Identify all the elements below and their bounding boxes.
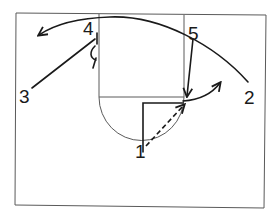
player-2-cut-path (39, 17, 248, 82)
player-4-curl-path (91, 46, 96, 68)
player-3-cut-path (32, 39, 95, 88)
play-diagram: 1 2 3 4 5 (0, 0, 276, 216)
player-label-3: 3 (19, 86, 30, 107)
player-label-4: 4 (83, 18, 94, 39)
court-boundary (15, 13, 266, 208)
player-label-2: 2 (244, 87, 255, 108)
player-label-5: 5 (188, 23, 199, 44)
player-5-cut-path (187, 39, 193, 96)
lane-rectangle (99, 14, 184, 97)
player-1-pass-path (146, 105, 184, 146)
player-label-1: 1 (135, 141, 146, 162)
